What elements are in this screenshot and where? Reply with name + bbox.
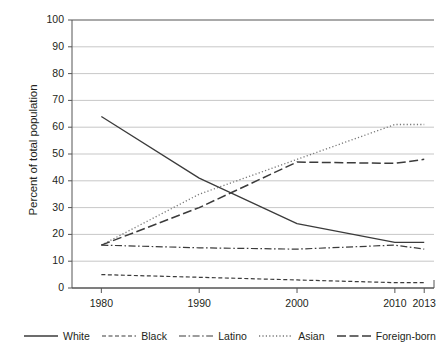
legend-swatch-dotted-icon xyxy=(259,331,293,341)
legend-label: Black xyxy=(141,330,167,342)
legend-label: Asian xyxy=(298,330,324,342)
legend-item-black[interactable]: Black xyxy=(102,330,167,342)
legend-item-foreign-born[interactable]: Foreign-born xyxy=(337,330,436,342)
gridlines xyxy=(72,20,434,288)
legend-swatch-solid-icon xyxy=(24,331,58,341)
chart-legend: WhiteBlackLatinoAsianForeign-born xyxy=(24,327,436,345)
line-chart-figure: Percent of total population 010203040506… xyxy=(0,0,447,352)
legend-label: White xyxy=(63,330,90,342)
legend-item-asian[interactable]: Asian xyxy=(259,330,324,342)
plot-area xyxy=(0,0,447,352)
legend-swatch-dashed-icon xyxy=(102,331,136,341)
legend-swatch-dash-dot-icon xyxy=(179,331,213,341)
series-lines xyxy=(101,116,424,282)
series-line-latino xyxy=(101,245,424,249)
tick-marks xyxy=(68,20,424,293)
legend-swatch-long-dash-icon xyxy=(337,331,371,341)
legend-item-white[interactable]: White xyxy=(24,330,90,342)
series-line-black xyxy=(101,275,424,283)
series-line-white xyxy=(101,116,424,242)
legend-label: Latino xyxy=(218,330,247,342)
legend-label: Foreign-born xyxy=(376,330,436,342)
legend-item-latino[interactable]: Latino xyxy=(179,330,247,342)
